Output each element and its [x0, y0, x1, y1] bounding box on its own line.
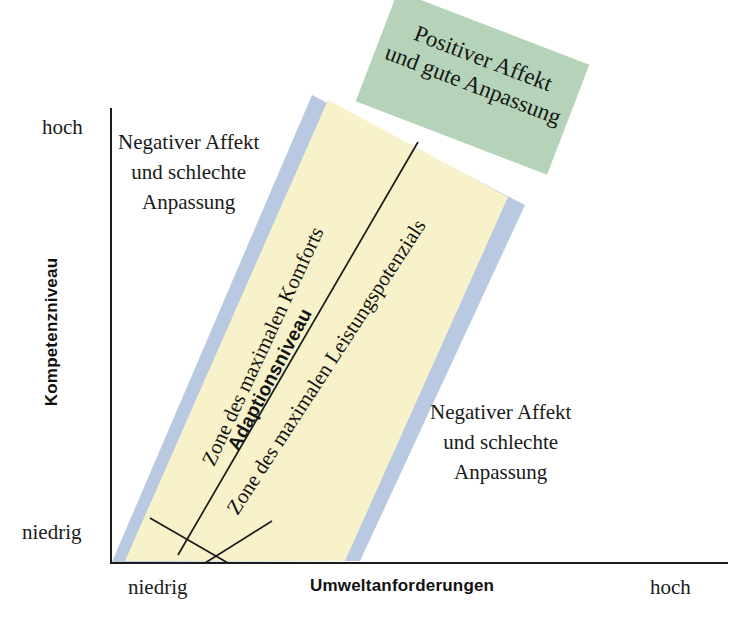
- region-tl-line-2: und schlechte: [118, 158, 259, 188]
- x-axis-low-label: niedrig: [128, 575, 187, 600]
- x-axis-high-label: hoch: [650, 575, 691, 600]
- diagram-canvas: Positiver Affekt und gute Anpassung hoch…: [0, 0, 730, 622]
- y-axis-low-label: niedrig: [22, 520, 81, 545]
- region-br-line-3: Anpassung: [430, 458, 571, 488]
- band-label-comfort: Zone des maximalen Komforts: [197, 223, 330, 470]
- region-label-bottom-right: Negativer Affekt und schlechte Anpassung: [430, 398, 571, 487]
- region-label-top-left: Negativer Affekt und schlechte Anpassung: [118, 128, 259, 217]
- y-axis-high-label: hoch: [42, 115, 83, 140]
- x-axis-line: [110, 562, 728, 564]
- region-tl-line-3: Anpassung: [118, 188, 259, 218]
- region-br-line-1: Negativer Affekt: [430, 398, 571, 428]
- y-axis-title: Kompetenzniveau: [42, 258, 62, 406]
- y-axis-line: [110, 108, 112, 564]
- region-br-line-2: und schlechte: [430, 428, 571, 458]
- leader-line-performance: [205, 521, 272, 563]
- x-axis-title: Umweltanforderungen: [310, 576, 494, 596]
- leader-line-comfort: [150, 518, 228, 563]
- region-tl-line-1: Negativer Affekt: [118, 128, 259, 158]
